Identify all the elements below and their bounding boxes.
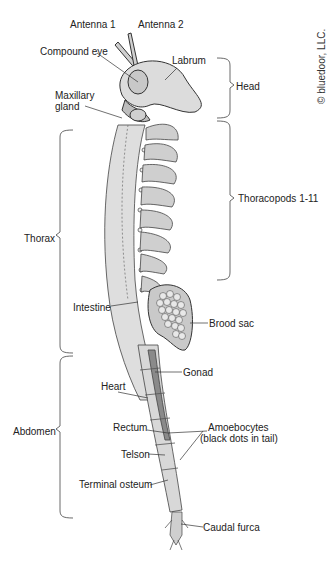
region-thoracopods: Thoracopods 1-11	[238, 193, 318, 204]
label-caudal-furca: Caudal furca	[203, 522, 260, 533]
label-labrum: Labrum	[172, 55, 206, 66]
label-terminal-osteum: Terminal osteum	[79, 479, 152, 490]
head-shape	[120, 61, 201, 122]
brood-sac	[148, 285, 192, 350]
label-maxillary-gland-1: Maxillary	[55, 90, 94, 101]
label-amoebocytes-2: (black dots in tail)	[200, 433, 278, 444]
label-brood-sac: Brood sac	[209, 318, 254, 329]
region-abdomen: Abdomen	[13, 426, 56, 437]
region-thorax: Thorax	[24, 233, 55, 244]
label-heart: Heart	[101, 381, 125, 392]
label-antenna-2: Antenna 2	[138, 19, 184, 30]
label-amoebocytes-1: Amoebocytes	[208, 422, 269, 433]
caudal-furca	[165, 512, 188, 550]
copyright-notice: © bluedoor, LLC.	[316, 29, 327, 104]
label-compound-eye: Compound eye	[40, 46, 108, 57]
thoracopods	[140, 124, 178, 294]
label-rectum: Rectum	[113, 422, 147, 433]
label-maxillary-gland-2: gland	[55, 101, 79, 112]
label-gonad: Gonad	[183, 367, 213, 378]
region-head: Head	[236, 81, 260, 92]
brine-shrimp-diagram	[0, 0, 333, 561]
label-antenna-1: Antenna 1	[70, 19, 116, 30]
label-intestine: Intestine	[73, 302, 111, 313]
label-telson: Telson	[121, 449, 150, 460]
